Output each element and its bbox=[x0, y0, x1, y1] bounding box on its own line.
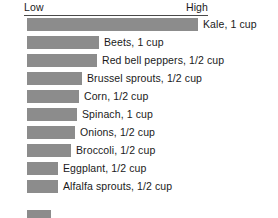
bar-row: Corn, 1/2 cup bbox=[0, 89, 278, 107]
scale-high-label: High bbox=[186, 1, 208, 13]
scale-axis-rule bbox=[24, 15, 208, 16]
bar-row: Eggplant, 1/2 cup bbox=[0, 161, 278, 179]
bar-label: Kale, 1 cup bbox=[203, 17, 257, 32]
bar-label: Broccoli, 1/2 cup bbox=[76, 143, 155, 158]
bar-row: Red bell peppers, 1/2 cup bbox=[0, 53, 278, 71]
bar-row: Alfalfa sprouts, 1/2 cup bbox=[0, 179, 278, 197]
bar-label: Spinach, 1 cup bbox=[82, 107, 153, 122]
bar bbox=[27, 108, 77, 121]
bar-row: Broccoli, 1/2 cup bbox=[0, 143, 278, 161]
bar-label: Red bell peppers, 1/2 cup bbox=[102, 53, 224, 68]
bar-label: Brussel sprouts, 1/2 cup bbox=[87, 71, 202, 86]
bar bbox=[27, 90, 79, 103]
bar bbox=[27, 144, 71, 157]
bar-row: Kale, 1 cup bbox=[0, 17, 278, 35]
clipped-bar-row bbox=[27, 210, 51, 218]
bar bbox=[27, 72, 82, 85]
horizontal-bar-chart: Low High Kale, 1 cupBeets, 1 cupRed bell… bbox=[0, 0, 278, 218]
bar bbox=[27, 126, 75, 139]
bar bbox=[27, 18, 198, 31]
bar bbox=[27, 36, 99, 49]
bar-label: Alfalfa sprouts, 1/2 cup bbox=[63, 179, 172, 194]
bar-row: Spinach, 1 cup bbox=[0, 107, 278, 125]
bar-list: Kale, 1 cupBeets, 1 cupRed bell peppers,… bbox=[0, 17, 278, 197]
bar-label: Corn, 1/2 cup bbox=[84, 89, 148, 104]
bar-label: Onions, 1/2 cup bbox=[80, 125, 155, 140]
scale-header: Low High bbox=[24, 1, 208, 15]
bar-row: Brussel sprouts, 1/2 cup bbox=[0, 71, 278, 89]
bar-label: Eggplant, 1/2 cup bbox=[63, 161, 146, 176]
bar-label: Beets, 1 cup bbox=[104, 35, 164, 50]
scale-low-label: Low bbox=[24, 1, 44, 13]
bar-row: Onions, 1/2 cup bbox=[0, 125, 278, 143]
bar bbox=[27, 162, 58, 175]
bar bbox=[27, 180, 58, 193]
bar-row: Beets, 1 cup bbox=[0, 35, 278, 53]
bar bbox=[27, 54, 97, 67]
